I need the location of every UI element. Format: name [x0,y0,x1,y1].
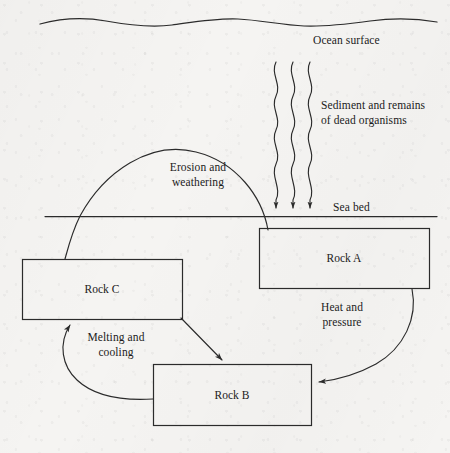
melting-and-cooling-label: Melting and cooling [64,330,168,359]
heat-and-pressure-label: Heat and pressure [300,300,384,329]
rock-b-label: Rock B [153,364,311,425]
rock-c-label: Rock C [22,259,182,319]
sea-bed-label: Sea bed [333,200,370,215]
ocean-surface-wave-line [40,19,437,27]
rock-cycle-diagram: Ocean surface Sediment and remains of de… [0,0,450,453]
sediment-wavy-arrow-1 [274,62,277,208]
sediment-wavy-arrow-3 [308,62,311,208]
sediment-and-remains-label: Sediment and remains of dead organisms [321,98,425,127]
rock-a-label: Rock A [259,228,429,288]
rock-c-to-rock-b-arrow [181,318,222,360]
ocean-surface-label: Ocean surface [313,33,380,48]
sediment-wavy-arrow-2 [291,62,294,208]
erosion-and-weathering-label: Erosion and weathering [146,160,250,189]
